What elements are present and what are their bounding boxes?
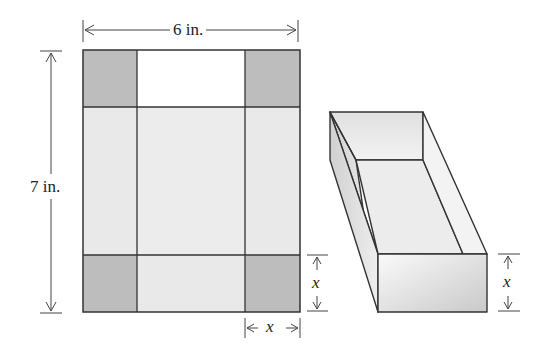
width-label: 6 in. bbox=[170, 21, 206, 38]
corner-top-right bbox=[245, 50, 300, 107]
bottom-panel bbox=[137, 107, 245, 255]
top-flap bbox=[137, 50, 245, 107]
corner-top-left bbox=[83, 50, 137, 107]
box-net bbox=[83, 50, 300, 312]
height-label: 7 in. bbox=[30, 174, 60, 199]
box-x-label: x bbox=[503, 273, 511, 290]
net-x-horizontal-label: x bbox=[266, 318, 274, 335]
corner-bottom-right bbox=[245, 255, 300, 312]
net-x-vertical-label: x bbox=[312, 274, 320, 291]
open-box bbox=[330, 112, 487, 312]
diagram-canvas bbox=[0, 0, 537, 348]
corner-bottom-left bbox=[83, 255, 137, 312]
